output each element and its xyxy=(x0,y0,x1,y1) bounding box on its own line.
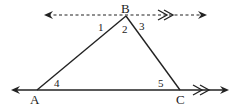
angle-label-3: 3 xyxy=(139,20,145,32)
triangle-parallel-diagram: B A C 1 2 3 4 5 xyxy=(0,0,235,107)
vertex-label-c: C xyxy=(176,92,185,107)
arrow-left-icon xyxy=(44,11,53,19)
angle-label-2: 2 xyxy=(122,23,128,35)
angle-label-1: 1 xyxy=(98,21,104,33)
angle-label-5: 5 xyxy=(158,77,164,89)
angle-label-4: 4 xyxy=(54,77,60,89)
vertex-label-a: A xyxy=(30,92,40,107)
vertex-label-b: B xyxy=(121,1,130,16)
